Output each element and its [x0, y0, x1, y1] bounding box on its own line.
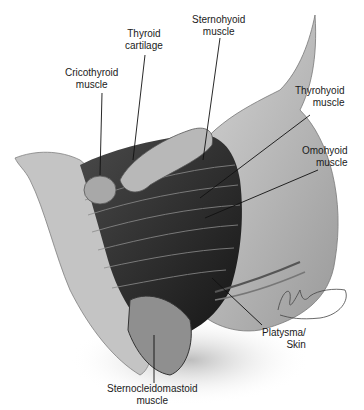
label-line: muscle	[295, 97, 344, 109]
label-cricothyroid-muscle: Cricothyroid muscle	[65, 67, 118, 91]
label-line: muscle	[302, 157, 348, 169]
label-line: muscle	[65, 79, 118, 91]
label-line: cartilage	[125, 40, 163, 52]
label-line: Cricothyroid	[65, 67, 118, 79]
label-line: Sternohyoid	[192, 14, 245, 26]
label-line: muscle	[107, 395, 198, 407]
label-thyroid-cartilage: Thyroid cartilage	[125, 28, 163, 52]
label-sternohyoid-muscle: Sternohyoid muscle	[192, 14, 245, 38]
label-line: Thyroid	[125, 28, 163, 40]
label-line: muscle	[192, 26, 245, 38]
label-line: Omohyoid	[302, 145, 348, 157]
label-omohyoid-muscle: Omohyoid muscle	[302, 145, 348, 169]
label-line: Platysma/	[262, 327, 306, 339]
label-line: Thyrohyoid	[295, 85, 344, 97]
label-line: Sternocleidomastoid	[107, 383, 198, 395]
label-thyrohyoid-muscle: Thyrohyoid muscle	[295, 85, 344, 109]
label-platysma-skin: Platysma/ Skin	[262, 327, 306, 351]
neck-anatomy-illustration	[0, 0, 364, 410]
cricothyroid-structure	[84, 176, 116, 204]
label-line: Skin	[262, 339, 306, 351]
label-sternocleidomastoid-muscle: Sternocleidomastoid muscle	[107, 383, 198, 407]
